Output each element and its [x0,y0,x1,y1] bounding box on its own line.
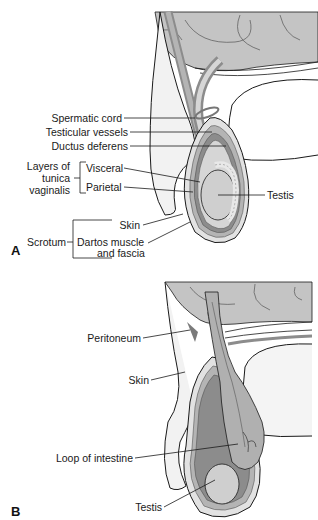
label-layers-line3: vaginalis [10,184,70,196]
label-peritoneum: Peritoneum [60,332,141,344]
label-visceral: Visceral [86,162,123,174]
label-ductus-deferens: Ductus deferens [40,140,128,152]
label-testis-b: Testis [120,501,162,513]
panel-b-illustration [0,262,318,520]
panel-letter-b: B [11,504,20,519]
panel-a-normal-anatomy: Spermatic cord Testicular vessels Ductus… [0,0,318,262]
label-loop-of-intestine: Loop of intestine [40,452,133,464]
label-layers-line1: Layers of [10,160,70,172]
label-spermatic-cord: Spermatic cord [40,112,122,124]
label-dartos-line2: and fascia [97,247,145,259]
panel-letter-a: A [11,243,20,258]
panel-b-hernia: Peritoneum Skin Loop of intestine Testis… [0,262,318,520]
label-skin-b: Skin [110,374,149,386]
testis-b [205,464,239,504]
intestines-b [165,282,312,325]
label-parietal: Parietal [86,181,122,193]
label-layers-line2: tunica [10,172,70,184]
label-testicular-vessels: Testicular vessels [30,126,128,138]
label-testis-a: Testis [267,189,294,201]
label-skin-a: Skin [80,219,140,231]
